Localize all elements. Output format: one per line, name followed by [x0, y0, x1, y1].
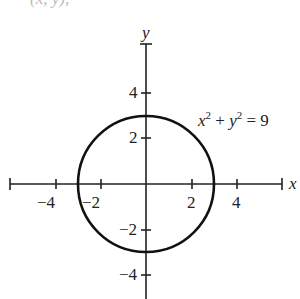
y-tick-label: 2 [129, 129, 138, 146]
circle-graph [0, 0, 300, 299]
y-tick-label: −4 [119, 266, 137, 283]
y-axis-label: y [142, 24, 150, 41]
x-tick-label: −2 [82, 194, 100, 211]
x-tick-label: −4 [37, 194, 55, 211]
equation-label: x2 + y2 = 9 [198, 110, 269, 129]
y-tick-label: 4 [129, 84, 138, 101]
x-tick-label: 2 [187, 194, 196, 211]
x-tick-label: 4 [232, 194, 241, 211]
x-axis-label: x [289, 175, 297, 192]
y-tick-label: −2 [119, 221, 137, 238]
